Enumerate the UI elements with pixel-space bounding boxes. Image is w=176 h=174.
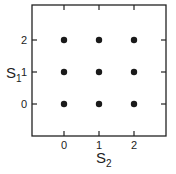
data-point (131, 37, 137, 43)
data-point (96, 37, 102, 43)
data-point (131, 69, 137, 75)
y-tick-label: 0 (21, 98, 27, 110)
data-point (96, 69, 102, 75)
scatter-chart: 012 012 S1 S2 (0, 0, 176, 174)
y-tick-label: 1 (21, 66, 27, 78)
y-tick-label: 2 (21, 34, 27, 46)
y-axis-label: S1 (6, 64, 22, 84)
data-point (61, 69, 67, 75)
x-axis-label: S2 (96, 149, 112, 169)
data-point (131, 101, 137, 107)
x-tick-label: 2 (131, 139, 137, 151)
data-points (61, 37, 137, 107)
data-point (96, 101, 102, 107)
data-point (61, 37, 67, 43)
y-tick-labels: 012 (21, 34, 27, 110)
x-tick-label: 0 (61, 139, 67, 151)
data-point (61, 101, 67, 107)
